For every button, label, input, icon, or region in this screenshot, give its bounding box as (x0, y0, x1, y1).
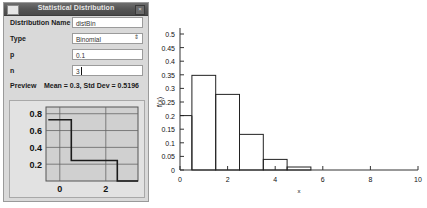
distribution-name-input[interactable]: distBin (72, 17, 143, 28)
type-select[interactable]: Binomial ⇕ (72, 33, 143, 44)
field-row-distribution-name: Distribution Name distBin (4, 15, 148, 31)
distribution-form: Distribution Name distBin Type Binomial … (4, 15, 148, 92)
x-axis-label: x (298, 188, 301, 194)
x-tick-label: 4 (273, 176, 277, 183)
x-tick-label: 2 (226, 176, 230, 183)
histogram-svg: 00.050.10.150.20.250.30.350.40.450.50246… (152, 20, 424, 206)
histogram-bar (192, 75, 216, 170)
y-tick-label: 0.3 (165, 85, 175, 92)
y-tick-label: 0.25 (161, 99, 175, 106)
type-value: Binomial (76, 36, 101, 43)
label-distribution-name: Distribution Name (10, 19, 70, 26)
close-icon[interactable]: × (135, 5, 145, 15)
y-tick-label: 0.35 (161, 72, 175, 79)
histogram-bar (287, 167, 311, 170)
distribution-stats: Mean = 0.3, Std Dev = 0.5196 (44, 82, 139, 89)
x-tick-label: 10 (414, 176, 422, 183)
field-row-n: n 3 (4, 63, 148, 79)
y-tick-label: 0.2 (165, 113, 175, 120)
x-tick-label: 6 (321, 176, 325, 183)
statistical-distribution-dialog: Statistical Distribution × Distribution … (3, 2, 149, 202)
field-row-type: Type Binomial ⇕ (4, 31, 148, 47)
y-tick-label: 0.5 (165, 31, 175, 38)
x-tick-label: 2 (103, 184, 108, 194)
y-tick-label: 0.8 (29, 109, 42, 119)
distribution-histogram-chart: 00.050.10.150.20.250.30.350.40.450.50246… (152, 20, 424, 206)
x-tick-label: 8 (368, 176, 372, 183)
text-cursor (81, 67, 82, 75)
screen: Statistical Distribution × Distribution … (0, 0, 427, 208)
dialog-title: Statistical Distribution (4, 4, 148, 11)
n-value: 3 (76, 68, 80, 75)
preview-chart: 0.20.40.60.802 (9, 100, 145, 198)
p-input[interactable]: 0.1 (72, 49, 143, 60)
field-row-p: p 0.1 (4, 47, 148, 63)
histogram-bar (216, 94, 240, 170)
y-tick-label: 0.45 (161, 45, 175, 52)
n-input[interactable]: 3 (72, 65, 143, 76)
histogram-bar (240, 134, 264, 170)
label-type: Type (10, 35, 26, 42)
y-tick-label: 0.1 (165, 140, 175, 147)
p-value: 0.1 (76, 52, 85, 59)
label-n: n (10, 67, 14, 74)
y-axis-label: f(x) (156, 97, 164, 107)
chevron-up-down-icon[interactable]: ⇕ (133, 35, 139, 44)
preview-label: Preview (10, 82, 36, 89)
label-p: p (10, 51, 14, 58)
y-tick-label: 0.6 (29, 126, 42, 136)
x-tick-label: 0 (178, 176, 182, 183)
distribution-name-value: distBin (76, 20, 96, 27)
y-tick-label: 0 (171, 167, 175, 174)
preview-header: Preview Mean = 0.3, Std Dev = 0.5196 (4, 79, 148, 92)
y-tick-label: 0.2 (29, 160, 42, 170)
preview-chart-svg: 0.20.40.60.802 (10, 101, 144, 197)
y-tick-label: 0.4 (165, 58, 175, 65)
x-tick-label: 0 (57, 184, 62, 194)
y-tick-label: 0.4 (29, 143, 42, 153)
y-tick-label: 0.05 (161, 153, 175, 160)
y-tick-label: 0.15 (161, 126, 175, 133)
